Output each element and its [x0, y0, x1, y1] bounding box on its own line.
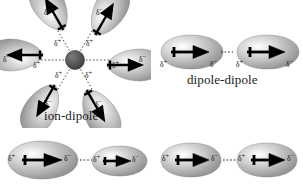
charge-label-delta-positive: δ+ [162, 155, 169, 163]
panel-dipole-dipole: δ+ δ− δ+ δ− dipole-dipole [151, 22, 303, 92]
dispersion-graphic [151, 136, 303, 196]
panel-ion-dipole: δ− δ+ δ+ δ− δ− δ+ δ− δ+ δ+ δ− δ+ δ− ion-… [0, 0, 151, 128]
charge-label-delta-negative: δ− [210, 61, 217, 69]
charge-label-delta-positive: δ+ [93, 156, 100, 164]
charge-label-delta-positive: δ+ [85, 72, 92, 80]
panel-dipole-induced-dipole: δ+ δ− δ+ δ− [0, 136, 151, 196]
dipole-induced-dipole-graphic [0, 136, 151, 196]
panel-dispersion: δ+ δ− δ+ δ− [151, 136, 303, 196]
charge-label-delta-negative: δ− [44, 9, 51, 17]
charge-label-delta-positive: δ+ [33, 62, 40, 70]
charge-label-delta-negative: δ− [287, 155, 294, 163]
charge-label-delta-positive: δ+ [236, 61, 243, 69]
charge-label-delta-positive: δ+ [86, 40, 93, 48]
caption-ion-dipole: ion-dipole [44, 108, 98, 124]
charge-label-delta-positive: δ+ [112, 62, 119, 70]
caption-dipole-dipole: dipole-dipole [187, 72, 258, 88]
charge-label-delta-negative: δ− [139, 56, 146, 64]
charge-label-delta-positive: δ+ [238, 155, 245, 163]
charge-label-delta-positive: δ+ [8, 155, 15, 163]
charge-label-delta-negative: δ− [64, 155, 71, 163]
charge-label-delta-negative: δ− [132, 156, 139, 164]
central-ion [66, 51, 85, 70]
charge-label-delta-positive: δ+ [54, 40, 61, 48]
charge-label-delta-negative: δ− [3, 56, 10, 64]
charge-label-delta-negative: δ− [211, 155, 218, 163]
charge-label-delta-negative: δ− [286, 61, 293, 69]
charge-label-delta-positive: δ+ [55, 72, 62, 80]
charge-label-delta-negative: δ− [96, 9, 103, 17]
charge-label-delta-positive: δ+ [160, 61, 167, 69]
